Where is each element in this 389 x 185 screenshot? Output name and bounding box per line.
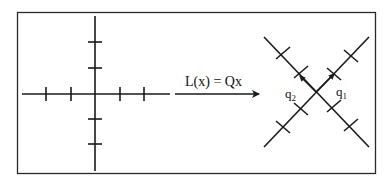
standard-axes	[22, 16, 170, 171]
transform-label: L(x) = Qx	[185, 74, 242, 90]
q1-label: q1	[336, 84, 347, 101]
diagram-canvas: L(x) = Qx q2 q1	[0, 0, 389, 185]
q2-vector-arrow-icon	[300, 76, 316, 92]
transform-arrow-group: L(x) = Qx	[175, 74, 259, 94]
q2-label: q2	[285, 86, 296, 103]
rotated-axes: q2 q1	[264, 37, 369, 147]
q1-vector-arrow-icon	[316, 74, 334, 92]
